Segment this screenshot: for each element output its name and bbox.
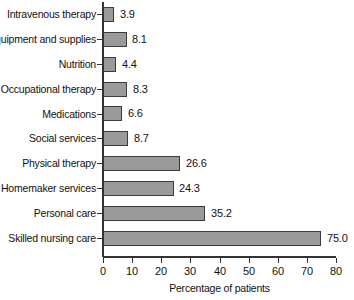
x-tick <box>278 258 279 263</box>
bar <box>103 206 205 221</box>
x-tick-label: 10 <box>126 265 138 277</box>
x-tick-label: 40 <box>214 265 226 277</box>
x-tick <box>103 258 104 263</box>
category-label: Medications <box>42 109 96 120</box>
x-tick-label: 50 <box>243 265 255 277</box>
bar <box>103 131 128 146</box>
bar <box>103 32 127 47</box>
x-tick <box>132 258 133 263</box>
category-label: Nutrition <box>59 59 96 70</box>
x-tick <box>190 258 191 263</box>
bar-chart: Intravenous therapy Equipment and suppli… <box>0 0 354 300</box>
x-tick <box>161 258 162 263</box>
x-tick-label: 70 <box>301 265 313 277</box>
category-label: Skilled nursing care <box>8 233 96 244</box>
category-label: Intravenous therapy <box>7 9 96 20</box>
x-tick <box>336 258 337 263</box>
bar-value-label: 8.1 <box>132 34 147 45</box>
x-tick-label: 30 <box>184 265 196 277</box>
bar <box>103 231 321 246</box>
bar <box>103 181 174 196</box>
bar-value-label: 6.6 <box>128 108 143 119</box>
bar <box>103 7 114 22</box>
bar-value-label: 26.6 <box>186 158 207 169</box>
bar-value-label: 24.3 <box>179 183 200 194</box>
x-tick-label: 80 <box>330 265 342 277</box>
bar-value-label: 8.3 <box>133 84 148 95</box>
category-label: Homemaker services <box>1 183 96 194</box>
x-axis-title: Percentage of patients <box>103 282 336 294</box>
x-tick <box>249 258 250 263</box>
x-tick-label: 60 <box>272 265 284 277</box>
x-tick <box>220 258 221 263</box>
x-tick-label: 0 <box>100 265 106 277</box>
bar <box>103 57 116 72</box>
category-label: Physical therapy <box>22 158 96 169</box>
category-label: Equipment and supplies <box>0 34 96 45</box>
bar-value-label: 75.0 <box>327 233 348 244</box>
bar <box>103 106 122 121</box>
category-label: Occupational therapy <box>1 84 96 95</box>
category-label: Social services <box>29 133 96 144</box>
bar-value-label: 35.2 <box>211 208 232 219</box>
bar <box>103 156 180 171</box>
x-tick-label: 20 <box>155 265 167 277</box>
bar-value-label: 3.9 <box>120 9 135 20</box>
bar <box>103 82 127 97</box>
bar-value-label: 4.4 <box>122 59 137 70</box>
x-tick <box>307 258 308 263</box>
y-axis-line <box>102 2 104 257</box>
category-label: Personal care <box>34 208 96 219</box>
bar-value-label: 8.7 <box>134 133 149 144</box>
